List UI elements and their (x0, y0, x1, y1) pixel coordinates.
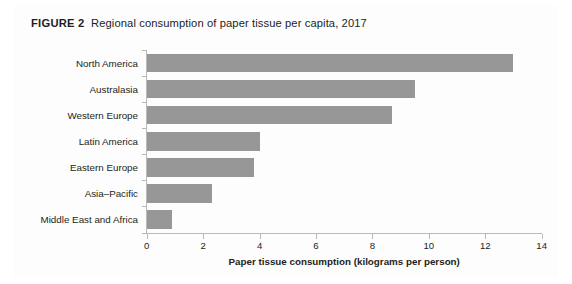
x-axis-tick (260, 234, 261, 239)
x-axis-tick-label: 2 (200, 240, 205, 251)
y-axis-tick (142, 50, 147, 51)
y-axis-tick (142, 154, 147, 155)
x-axis-tick (316, 234, 317, 239)
x-axis-tick-label: 14 (536, 240, 547, 251)
y-axis-tick (142, 233, 147, 234)
x-axis-tick-label: 4 (257, 240, 262, 251)
category-label: Middle East and Africa (41, 214, 138, 225)
category-label: North America (76, 58, 138, 69)
x-axis-tick-label: 0 (144, 240, 149, 251)
bar (147, 54, 514, 73)
x-axis-tick (485, 234, 486, 239)
bar (147, 106, 392, 125)
category-label: Latin America (79, 136, 138, 147)
x-axis-tick (203, 234, 204, 239)
category-label: Western Europe (67, 110, 138, 121)
bar (147, 80, 415, 99)
y-axis-tick (142, 180, 147, 181)
bar (147, 184, 212, 203)
category-label: Eastern Europe (70, 162, 138, 173)
x-axis-tick-label: 6 (313, 240, 318, 251)
x-axis-tick-label: 8 (370, 240, 375, 251)
x-axis-tick (372, 234, 373, 239)
x-axis-tick (429, 234, 430, 239)
category-label: Asia–Pacific (85, 188, 138, 199)
y-axis-tick (142, 206, 147, 207)
bar (147, 210, 172, 229)
category-label: Australasia (90, 84, 138, 95)
x-axis-title: Paper tissue consumption (kilograms per … (147, 256, 542, 267)
bar (147, 132, 260, 151)
x-axis-tick (542, 234, 543, 239)
x-axis-line (147, 233, 542, 234)
bar-chart-plot-area: 02468101214 North AmericaAustralasiaWest… (0, 0, 572, 284)
bar (147, 158, 254, 177)
y-axis-tick (142, 76, 147, 77)
x-axis-tick-label: 10 (423, 240, 434, 251)
x-axis-tick-label: 12 (480, 240, 491, 251)
x-axis-tick (147, 234, 148, 239)
y-axis-tick (142, 128, 147, 129)
y-axis-tick (142, 102, 147, 103)
